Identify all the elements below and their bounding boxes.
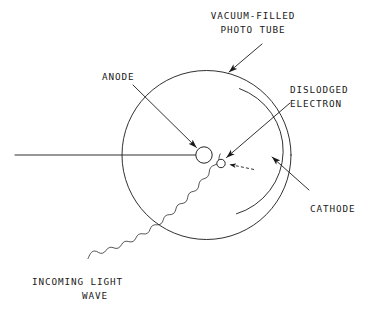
label-dislodged-electron-line2: ELECTRON (290, 98, 342, 109)
label-photo-tube-line2: PHOTO TUBE (221, 24, 286, 35)
label-incoming-wave-line2: WAVE (82, 290, 108, 301)
label-anode: ANODE (102, 71, 135, 82)
leader-line-photo-tube (229, 44, 262, 72)
label-cathode: CATHODE (310, 203, 355, 214)
label-photo-tube-line1: VACUUM-FILLED (211, 10, 295, 21)
incoming-light-wave (88, 154, 220, 259)
diagram-canvas: VACUUM-FILLED PHOTO TUBE ANODE DISLODGED… (0, 0, 378, 313)
label-dislodged-electron-line1: DISLODGED (290, 84, 348, 95)
leader-line-dislodged-electron (227, 103, 291, 158)
dislodged-electron (217, 159, 225, 167)
label-incoming-wave-line1: INCOMING LIGHT (32, 276, 123, 287)
photo-tube-diagram: VACUUM-FILLED PHOTO TUBE ANODE DISLODGED… (0, 0, 378, 313)
electron-trajectory-arrow (230, 164, 255, 169)
anode-electrode (196, 147, 212, 163)
leader-line-anode (133, 85, 197, 148)
